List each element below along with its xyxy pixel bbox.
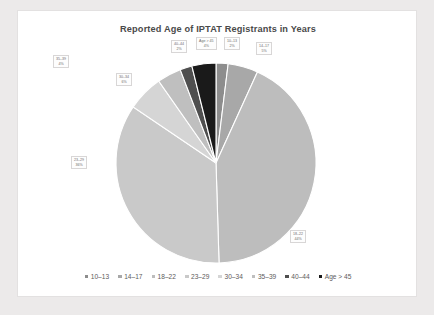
screenshot-root: Reported Age of IPTAT Registrants in Yea… [0, 0, 434, 315]
callout-percent: 4% [56, 62, 66, 67]
legend-item-label: 14–17 [124, 273, 142, 280]
legend-swatch-icon [152, 275, 156, 279]
legend-swatch-icon [319, 275, 323, 279]
slice-callout-30-34: 30–34 6% [116, 73, 132, 86]
callout-category: 18–22 [293, 232, 303, 237]
callout-percent: 5% [259, 49, 269, 54]
legend-item-label: 18–22 [158, 273, 176, 280]
legend-item-label: 40–44 [291, 273, 309, 280]
legend-item-40-44[interactable]: 40–44 [285, 273, 309, 280]
legend-swatch-icon [285, 275, 289, 279]
slice-callout-10-13: 10–13 2% [224, 37, 240, 50]
slice-callout-35-39: 35–39 4% [53, 55, 69, 68]
legend-item-14-17[interactable]: 14–17 [118, 273, 142, 280]
callout-category: Age > 45 [199, 39, 214, 44]
slice-callout-14-17: 14–17 5% [256, 42, 272, 55]
slice-callout-age-over-45: Age > 45 4% [196, 37, 217, 50]
pie-chart-plot-area: 35–39 4% 40–44 2% Age > 45 4% 10–13 2% 1… [18, 11, 418, 266]
callout-category: 35–39 [56, 57, 66, 62]
callout-percent: 2% [227, 44, 237, 49]
slice-callout-40-44: 40–44 2% [171, 40, 187, 53]
legend-item-label: 10–13 [91, 273, 109, 280]
callout-category: 10–13 [227, 39, 237, 44]
callout-category: 30–34 [119, 75, 129, 80]
callout-category: 40–44 [174, 42, 184, 47]
legend-swatch-icon [218, 275, 222, 279]
legend-item-30-34[interactable]: 30–34 [218, 273, 242, 280]
callout-percent: 36% [74, 163, 84, 168]
legend-item-18-22[interactable]: 18–22 [152, 273, 176, 280]
legend-item-age-45[interactable]: Age > 45 [319, 273, 352, 280]
callout-percent: 2% [174, 47, 184, 52]
callout-category: 14–17 [259, 44, 269, 49]
legend-swatch-icon [252, 275, 256, 279]
slice-callout-23-29: 23–29 36% [71, 156, 87, 169]
callout-category: 23–29 [74, 158, 84, 163]
legend-item-10-13[interactable]: 10–13 [85, 273, 109, 280]
callout-percent: 6% [119, 80, 129, 85]
legend-item-23-29[interactable]: 23–29 [185, 273, 209, 280]
legend-item-label: 35–39 [258, 273, 276, 280]
chart-panel: Reported Age of IPTAT Registrants in Yea… [17, 10, 417, 297]
legend-item-label: 23–29 [191, 273, 209, 280]
slice-callout-18-22: 18–22 44% [290, 230, 306, 243]
legend-item-35-39[interactable]: 35–39 [252, 273, 276, 280]
pie-chart-svg [18, 11, 418, 266]
legend-swatch-icon [118, 275, 122, 279]
chart-legend: 10–1314–1718–2223–2930–3435–3940–44Age >… [18, 273, 418, 280]
legend-item-label: 30–34 [224, 273, 242, 280]
callout-percent: 44% [293, 237, 303, 242]
callout-percent: 4% [199, 44, 214, 49]
legend-item-label: Age > 45 [325, 273, 352, 280]
legend-swatch-icon [185, 275, 189, 279]
legend-swatch-icon [85, 275, 89, 279]
